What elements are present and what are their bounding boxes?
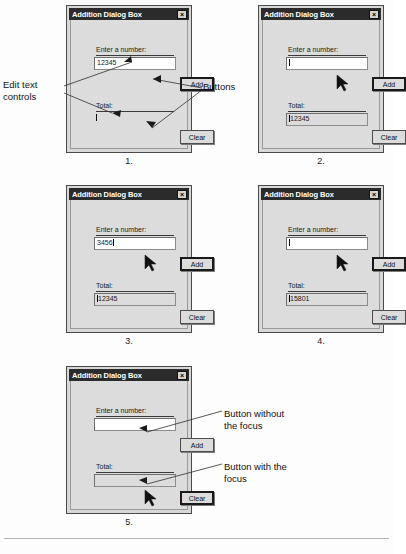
panel-caption-3: 3. (96, 336, 162, 346)
label-rule-total-2 (288, 111, 366, 112)
label-rule-number-2 (288, 55, 366, 56)
add-button-4[interactable]: Add (372, 257, 406, 271)
dialog-window-3: Addition Dialog Box × Enter a number: 34… (66, 185, 192, 333)
label-rule-total-5 (96, 472, 174, 473)
label-rule-number-4 (288, 235, 366, 236)
total-input-value: 12345 (98, 295, 117, 302)
label-rule-number-3 (96, 235, 174, 236)
number-input-4[interactable] (286, 237, 368, 250)
clear-button-2[interactable]: Clear (372, 130, 406, 144)
annotation-button-with-focus: Button with the focus (224, 461, 334, 484)
number-input-2[interactable] (286, 57, 368, 70)
label-rule-total-4 (288, 291, 366, 292)
number-input-1[interactable]: 12345 (94, 57, 176, 70)
total-label-1: Total: (96, 102, 113, 109)
clear-button-1[interactable]: Clear (180, 130, 214, 144)
text-caret (289, 59, 290, 66)
number-input-value: 3456 (97, 239, 113, 246)
total-label-5: Total: (96, 463, 113, 470)
close-icon[interactable]: × (177, 190, 187, 199)
footer-rule (4, 538, 389, 539)
total-input-4[interactable]: 15801 (286, 293, 368, 306)
title-bar-1: Addition Dialog Box × (69, 8, 189, 20)
dialog-title: Addition Dialog Box (263, 190, 334, 199)
add-button-5[interactable]: Add (180, 438, 214, 452)
total-input-2[interactable]: 12345 (286, 113, 368, 126)
panel-caption-4: 4. (288, 336, 354, 346)
total-input-5[interactable] (94, 474, 176, 487)
label-rule-number-1 (96, 55, 174, 56)
total-label-2: Total: (288, 102, 305, 109)
panel-caption-2: 2. (288, 156, 354, 166)
enter-number-label: Enter a number: (96, 46, 146, 53)
text-caret (113, 239, 114, 246)
dialog-title: Addition Dialog Box (71, 190, 142, 199)
dialog-client-area-5 (70, 370, 188, 510)
clear-button-5[interactable]: Clear (180, 491, 214, 505)
label-rule-number-5 (96, 416, 174, 417)
enter-number-label: Enter a number: (96, 226, 146, 233)
close-icon[interactable]: × (369, 190, 379, 199)
title-bar-4: Addition Dialog Box × (261, 188, 381, 200)
title-bar-5: Addition Dialog Box × (69, 369, 189, 381)
title-bar-2: Addition Dialog Box × (261, 8, 381, 20)
dialog-window-2: Addition Dialog Box × Enter a number: Ad… (258, 5, 384, 153)
panel-caption-5: 5. (96, 517, 162, 527)
dialog-client-area-1 (70, 9, 188, 149)
enter-number-label: Enter a number: (288, 46, 338, 53)
add-button-2[interactable]: Add (372, 77, 406, 91)
dialog-client-area-2 (262, 9, 380, 149)
dialog-window-4: Addition Dialog Box × Enter a number: Ad… (258, 185, 384, 333)
enter-number-label: Enter a number: (288, 226, 338, 233)
text-caret (96, 114, 97, 121)
dialog-client-area-3 (70, 189, 188, 329)
annotation-buttons: Buttons (203, 81, 263, 93)
enter-number-label: Enter a number: (96, 407, 146, 414)
number-input-5[interactable] (94, 418, 176, 431)
annotation-edit-text-controls: Edit text controls (3, 79, 65, 102)
close-icon[interactable]: × (177, 10, 187, 19)
label-rule-total-1 (96, 111, 174, 112)
dialog-window-5: Addition Dialog Box × Enter a number: Ad… (66, 366, 192, 514)
panel-caption-1: 1. (96, 156, 162, 166)
total-label-4: Total: (288, 282, 305, 289)
total-label-3: Total: (96, 282, 113, 289)
dialog-window-1: Addition Dialog Box × Enter a number: 12… (66, 5, 192, 153)
clear-button-3[interactable]: Clear (180, 310, 214, 324)
total-input-3[interactable]: 12345 (94, 293, 176, 306)
add-button-3[interactable]: Add (180, 257, 214, 271)
dialog-client-area-4 (262, 189, 380, 329)
total-input-value: 12345 (290, 115, 309, 122)
number-input-3[interactable]: 3456 (94, 237, 176, 250)
annotation-button-without-focus: Button without the focus (224, 408, 334, 431)
total-input-1[interactable] (94, 113, 176, 126)
text-caret (289, 239, 290, 246)
clear-button-4[interactable]: Clear (372, 310, 406, 324)
label-rule-total-3 (96, 291, 174, 292)
close-icon[interactable]: × (369, 10, 379, 19)
dialog-title: Addition Dialog Box (71, 371, 142, 380)
dialog-title: Addition Dialog Box (263, 10, 334, 19)
close-icon[interactable]: × (177, 371, 187, 380)
dialog-title: Addition Dialog Box (71, 10, 142, 19)
title-bar-3: Addition Dialog Box × (69, 188, 189, 200)
total-input-value: 15801 (290, 295, 309, 302)
